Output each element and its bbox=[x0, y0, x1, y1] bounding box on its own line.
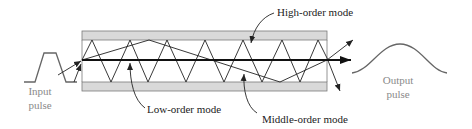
fiber-dispersion-diagram: Input pulse Output pulse High-order mode… bbox=[0, 0, 472, 129]
high-order-exit-ray bbox=[327, 58, 340, 91]
high-order-mode-label: High-order mode bbox=[277, 6, 353, 18]
output-pulse-label-line1: Output bbox=[383, 74, 414, 86]
fiber-cladding-top bbox=[82, 31, 327, 40]
middle-order-exit-ray bbox=[327, 40, 353, 60]
low-order-mode-label: Low-order mode bbox=[147, 103, 221, 115]
middle-order-mode-label: Middle-order mode bbox=[262, 113, 348, 125]
fiber-cladding-bottom bbox=[82, 82, 327, 91]
middle-order-callout-arrow bbox=[244, 74, 257, 113]
input-arrow-2 bbox=[74, 64, 81, 82]
input-pulse-label-line1: Input bbox=[28, 85, 51, 97]
output-pulse-waveform bbox=[352, 44, 447, 73]
input-pulse-waveform bbox=[24, 53, 77, 82]
high-order-mode-ray bbox=[82, 40, 327, 82]
middle-order-mode-ray bbox=[82, 40, 327, 82]
output-pulse-label-line2: pulse bbox=[386, 88, 409, 100]
input-pulse-label-line2: pulse bbox=[28, 99, 51, 111]
